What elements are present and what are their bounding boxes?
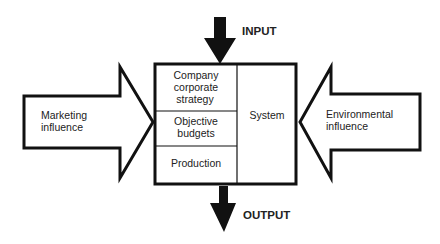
- marketing-influence-arrow: Marketing influence: [24, 67, 153, 178]
- cell-text-line: corporate: [174, 81, 219, 93]
- cell-company-corporate-strategy: Company corporate strategy: [174, 69, 220, 105]
- cell-production: Production: [171, 157, 221, 169]
- environmental-influence-line-1: Environmental: [326, 108, 393, 120]
- cell-text-line: budgets: [177, 127, 214, 139]
- output-arrow-icon: [210, 186, 236, 232]
- input-label: INPUT: [242, 25, 277, 37]
- system-label: System: [249, 109, 284, 121]
- environmental-influence-arrow: Environmental influence: [300, 67, 420, 178]
- output-arrow: OUTPUT: [210, 186, 290, 232]
- input-arrow: INPUT: [204, 17, 277, 64]
- cell-text-line: Objective: [174, 115, 218, 127]
- cell-text-line: Production: [171, 157, 221, 169]
- system-box: Company corporate strategy Objective bud…: [155, 64, 296, 184]
- environmental-influence-line-2: influence: [326, 120, 368, 132]
- output-label: OUTPUT: [243, 209, 290, 221]
- cell-text-line: Company: [174, 69, 220, 81]
- cell-text-line: strategy: [176, 93, 214, 105]
- cell-system: System: [249, 109, 284, 121]
- system-diagram: INPUT Marketing influence Environmental …: [0, 0, 440, 244]
- marketing-influence-line-2: influence: [41, 121, 83, 133]
- input-arrow-icon: [204, 17, 236, 64]
- marketing-influence-line-1: Marketing: [41, 109, 87, 121]
- cell-objective-budgets: Objective budgets: [174, 115, 218, 139]
